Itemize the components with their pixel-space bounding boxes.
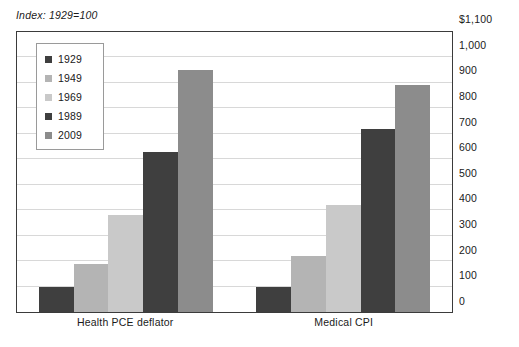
bar[interactable] xyxy=(256,287,291,312)
legend: 19291949196919892009 xyxy=(36,43,104,150)
bar-slot xyxy=(395,32,430,312)
legend-label: 1969 xyxy=(58,92,82,103)
bar-slot xyxy=(326,32,361,312)
y-axis-tick-label: 700 xyxy=(459,116,477,128)
legend-swatch-icon xyxy=(45,94,52,101)
y-axis-tick-label: 200 xyxy=(459,244,477,256)
legend-swatch-icon xyxy=(45,132,52,139)
legend-label: 1949 xyxy=(58,73,82,84)
legend-label: 1929 xyxy=(58,54,82,65)
bar-group xyxy=(256,32,430,312)
chart-figure: Index: 1929=100 010020030040050060070080… xyxy=(0,0,519,347)
bar-slot xyxy=(361,32,396,312)
index-note: Index: 1929=100 xyxy=(16,9,98,21)
legend-item[interactable]: 1929 xyxy=(45,50,103,69)
x-axis-tick-label: Medical CPI xyxy=(314,316,373,328)
legend-item[interactable]: 2009 xyxy=(45,126,103,145)
bar[interactable] xyxy=(395,85,430,312)
x-axis-labels: Health PCE deflatorMedical CPI xyxy=(16,316,453,336)
legend-item[interactable]: 1949 xyxy=(45,69,103,88)
y-axis-tick-label: 500 xyxy=(459,167,477,179)
y-axis-tick-label: 600 xyxy=(459,141,477,153)
legend-swatch-icon xyxy=(45,56,52,63)
legend-item[interactable]: 1989 xyxy=(45,107,103,126)
bar[interactable] xyxy=(326,205,361,312)
bar-slot xyxy=(291,32,326,312)
legend-item[interactable]: 1969 xyxy=(45,88,103,107)
y-axis-labels: 01002003004005006007008009001,000$1,100 xyxy=(459,31,515,313)
bar[interactable] xyxy=(39,287,74,312)
y-axis-tick-label: 100 xyxy=(459,269,477,281)
bar[interactable] xyxy=(291,256,326,312)
bar[interactable] xyxy=(361,129,396,312)
bar[interactable] xyxy=(143,152,178,312)
bar-slot xyxy=(108,32,143,312)
bar[interactable] xyxy=(74,264,109,312)
y-axis-tick-label: 0 xyxy=(459,295,465,307)
y-axis-tick-label: $1,100 xyxy=(459,13,492,25)
legend-label: 1989 xyxy=(58,111,82,122)
bar-slot xyxy=(256,32,291,312)
legend-label: 2009 xyxy=(58,130,82,141)
legend-swatch-icon xyxy=(45,113,52,120)
y-axis-tick-label: 800 xyxy=(459,90,477,102)
legend-swatch-icon xyxy=(45,75,52,82)
bar-slot xyxy=(143,32,178,312)
bar-slot xyxy=(178,32,213,312)
y-axis-tick-label: 300 xyxy=(459,218,477,230)
bar[interactable] xyxy=(108,215,143,312)
y-axis-tick-label: 900 xyxy=(459,64,477,76)
y-axis-tick-label: 400 xyxy=(459,192,477,204)
y-axis-tick-label: 1,000 xyxy=(459,39,486,51)
x-axis-tick-label: Health PCE deflator xyxy=(77,316,174,328)
bar[interactable] xyxy=(178,70,213,312)
